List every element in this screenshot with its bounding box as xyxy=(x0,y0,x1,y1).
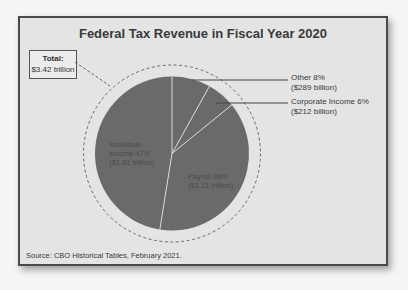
individual-label-line2: income 47% xyxy=(109,149,154,158)
slice-label-payroll: Payroll 38% ($1.21 trillion) xyxy=(188,172,233,190)
individual-label-line1: Individual xyxy=(109,140,154,149)
slice-label-individual: Individual income 47% ($1.61 trillion) xyxy=(109,140,154,167)
other-label-line1: Other 8% xyxy=(291,73,337,83)
payroll-label-line2: ($1.21 trillion) xyxy=(188,181,233,190)
corporate-label-line2: ($212 billion) xyxy=(291,107,369,117)
payroll-label-line1: Payroll 38% xyxy=(188,172,233,181)
individual-label-line3: ($1.61 trillion) xyxy=(109,158,154,167)
pie-chart xyxy=(0,0,408,290)
total-leader-line xyxy=(75,62,110,86)
slice-label-other: Other 8% ($289 billion) xyxy=(291,73,337,92)
corporate-label-line1: Corporate Income 6% xyxy=(291,97,369,107)
other-label-line2: ($289 billion) xyxy=(291,83,337,93)
slice-label-corporate: Corporate Income 6% ($212 billion) xyxy=(291,97,369,116)
